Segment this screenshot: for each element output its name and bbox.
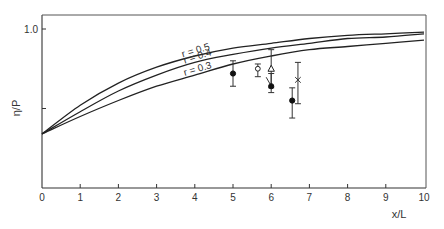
- x-tick-label: 2: [116, 192, 122, 203]
- filled-circle-marker: [269, 84, 274, 89]
- x-tick-label: 7: [307, 192, 313, 203]
- data-point: [295, 62, 301, 103]
- x-tick-label: 6: [268, 192, 274, 203]
- data-point: [255, 64, 261, 77]
- filled-circle-marker: [230, 71, 235, 76]
- x-tick-label: 8: [345, 192, 351, 203]
- filled-circle-marker: [290, 98, 295, 103]
- x-tick-label: 10: [418, 192, 430, 203]
- open-circle-marker: [255, 66, 260, 71]
- x-tick-label: 0: [39, 192, 45, 203]
- x-tick-label: 3: [154, 192, 160, 203]
- x-tick-label: 4: [192, 192, 198, 203]
- x-tick-label: 5: [230, 192, 236, 203]
- x-tick-label: 9: [383, 192, 389, 203]
- y-axis-label: η/P: [10, 100, 22, 117]
- x-axis-label: x/L: [392, 208, 407, 220]
- chart: 0123456789101.0 r = 0.5r = 0.4r = 0.3 x/…: [0, 0, 444, 229]
- y-tick-label: 1.0: [24, 24, 38, 35]
- leader-line: [266, 77, 270, 84]
- open-triangle-marker: [268, 65, 274, 71]
- data-point: [289, 88, 295, 118]
- x-tick-label: 1: [77, 192, 83, 203]
- data-point: [266, 74, 274, 93]
